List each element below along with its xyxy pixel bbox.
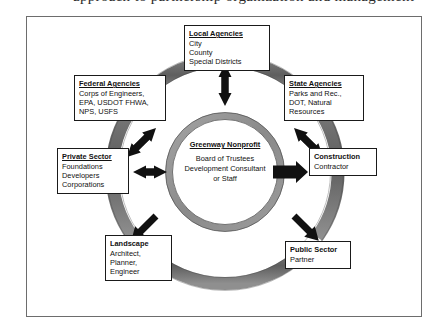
page-caption-text: approach to partnership organization and… bbox=[73, 0, 414, 5]
node-local-agencies-line-3: Special Districts bbox=[189, 57, 265, 66]
node-state-agencies-line-1: Parks and Rec., bbox=[289, 89, 359, 98]
node-construction-contractor[interactable]: Construction Contractor bbox=[309, 148, 377, 176]
node-private-sector[interactable]: Private Sector Foundations Developers Co… bbox=[57, 148, 129, 194]
partnership-diagram: Local Agencies City County Special Distr… bbox=[27, 17, 423, 318]
node-state-agencies-line-3: Resources bbox=[289, 107, 359, 116]
node-state-agencies-title: State Agencies bbox=[289, 79, 359, 88]
node-private-sector-title: Private Sector bbox=[62, 152, 124, 161]
center-organization-line-1: Board of Trustees bbox=[161, 154, 289, 164]
node-federal-agencies-line-2: EPA, USDOT FHWA, bbox=[79, 98, 161, 107]
center-organization[interactable]: Greenway Nonprofit Board of Trustees Dev… bbox=[161, 140, 289, 184]
node-landscape-architect-line-1: Architect, bbox=[110, 249, 167, 258]
center-organization-title: Greenway Nonprofit bbox=[161, 140, 289, 150]
node-construction-contractor-title: Construction bbox=[314, 152, 372, 161]
node-landscape-architect-line-3: Engineer bbox=[110, 267, 167, 276]
node-federal-agencies-line-3: NPS, USFS bbox=[79, 107, 161, 116]
node-public-sector-partner-line-1: Partner bbox=[290, 255, 346, 264]
node-federal-agencies-line-1: Corps of Engineers, bbox=[79, 89, 161, 98]
figure-frame: Local Agencies City County Special Distr… bbox=[26, 16, 422, 317]
node-public-sector-partner-title: Public Sector bbox=[290, 245, 346, 254]
node-private-sector-line-1: Foundations bbox=[62, 162, 124, 171]
node-federal-agencies[interactable]: Federal Agencies Corps of Engineers, EPA… bbox=[74, 75, 166, 121]
node-federal-agencies-title: Federal Agencies bbox=[79, 79, 161, 88]
node-public-sector-partner[interactable]: Public Sector Partner bbox=[285, 241, 351, 269]
page-caption-strip: approach to partnership organization and… bbox=[0, 0, 446, 13]
node-landscape-architect[interactable]: Landscape Architect, Planner, Engineer bbox=[105, 235, 172, 281]
node-local-agencies-title: Local Agencies bbox=[189, 29, 265, 38]
node-landscape-architect-title: Landscape bbox=[110, 239, 167, 248]
node-construction-contractor-line-1: Contractor bbox=[314, 162, 372, 171]
center-organization-line-2: Development Consultant bbox=[161, 164, 289, 174]
node-local-agencies-line-1: City bbox=[189, 39, 265, 48]
node-state-agencies[interactable]: State Agencies Parks and Rec., DOT, Natu… bbox=[284, 75, 364, 121]
node-landscape-architect-line-2: Planner, bbox=[110, 258, 167, 267]
center-organization-line-3: or Staff bbox=[161, 174, 289, 184]
node-local-agencies-line-2: County bbox=[189, 48, 265, 57]
node-local-agencies[interactable]: Local Agencies City County Special Distr… bbox=[184, 25, 270, 71]
node-private-sector-line-3: Corporations bbox=[62, 180, 124, 189]
node-private-sector-line-2: Developers bbox=[62, 171, 124, 180]
node-state-agencies-line-2: DOT, Natural bbox=[289, 98, 359, 107]
